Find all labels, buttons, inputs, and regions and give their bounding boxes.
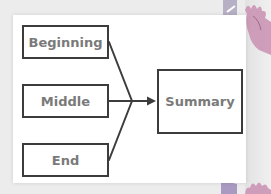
edge-beginning-summary xyxy=(109,42,132,101)
connector-arrows xyxy=(0,0,271,194)
arrowhead-icon xyxy=(147,97,156,106)
edge-end-summary xyxy=(109,101,132,160)
